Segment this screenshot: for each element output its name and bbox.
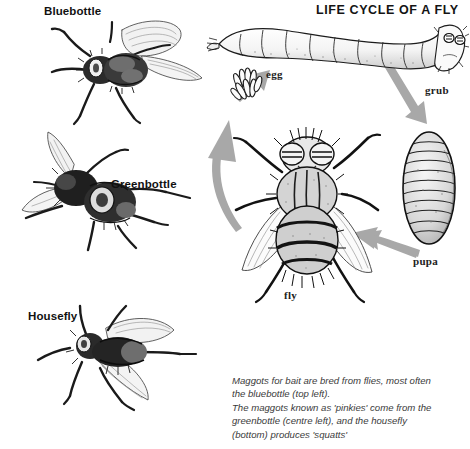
curved-arrow-up-icon [208, 120, 242, 232]
caption-line-1: Maggots for bait are bred from flies, mo… [232, 374, 464, 387]
caption-block: Maggots for bait are bred from flies, mo… [232, 374, 464, 441]
fly-life-cycle-illustration: LIFE CYCLE OF A FLY [0, 0, 470, 449]
stage-label-egg: egg [266, 68, 283, 80]
stage-label-grub: grub [425, 84, 449, 96]
caption-line-4: greenbottle (centre left), and the house… [232, 414, 464, 427]
specimen-label-bluebottle: Bluebottle [44, 5, 101, 17]
greenbottle-fly-illustration [14, 130, 209, 255]
specimen-label-housefly: Housefly [28, 310, 77, 322]
bluebottle-fly-illustration [30, 12, 210, 127]
fly-pupa-illustration [398, 128, 460, 248]
caption-line-3: The maggots known as 'pinkies' come from… [232, 401, 464, 414]
fly-egg-cluster-illustration [228, 66, 268, 104]
stage-label-fly: fly [284, 289, 297, 301]
caption-line-2: the bluebottle (top left). [232, 387, 464, 400]
caption-line-5: (bottom) produces 'squatts' [232, 428, 464, 441]
stage-label-pupa: pupa [413, 255, 438, 267]
adult-fly-illustration [238, 112, 378, 302]
specimen-label-greenbottle: Greenbottle [111, 178, 177, 190]
